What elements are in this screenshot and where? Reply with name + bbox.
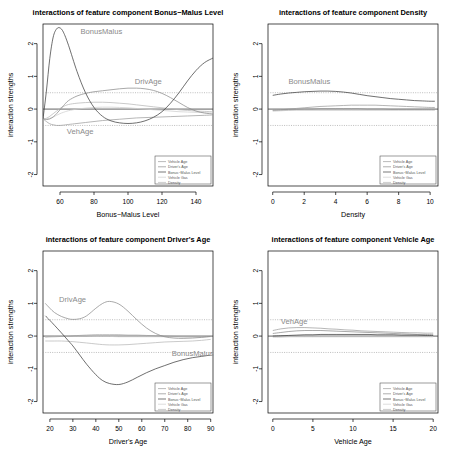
- x-tick-label: 2: [302, 198, 306, 205]
- series-line: [43, 115, 213, 126]
- y-tick-label: 2: [27, 268, 34, 272]
- y-axis-label: interaction strengths: [231, 72, 240, 137]
- curve-annotation: VehAge: [67, 127, 94, 136]
- legend-label: Vehicle Age: [168, 387, 187, 391]
- series-line: [273, 328, 433, 334]
- curve-annotation: BonusMalus: [172, 349, 214, 358]
- legend-label: Bonus−Malus Level: [168, 171, 200, 175]
- x-axis-label: Bonus−Malus Level: [97, 210, 160, 219]
- legend-label: Bonus−Malus Level: [393, 171, 425, 175]
- x-tick-label: 60: [56, 198, 64, 205]
- chart-panel-2: interactions of feature component Densit…: [225, 0, 450, 227]
- x-tick-label: 20: [430, 425, 438, 432]
- y-tick-label: 2: [27, 41, 34, 45]
- x-tick-label: 80: [90, 198, 98, 205]
- x-tick-label: 30: [69, 425, 77, 432]
- series-line: [273, 110, 435, 111]
- y-axis-label: interaction strengths: [6, 299, 15, 364]
- chart-title: interactions of feature component Driver…: [46, 235, 211, 244]
- y-tick-label: 0: [252, 334, 259, 338]
- y-tick-label: 1: [252, 301, 259, 305]
- legend-label: Vehicle Gas: [393, 403, 413, 407]
- curve-annotation: DrivAge: [59, 295, 86, 304]
- x-tick-label: 15: [389, 425, 397, 432]
- x-axis-label: Driver's Age: [109, 437, 148, 446]
- x-tick-label: 140: [190, 198, 201, 205]
- x-tick-label: 120: [156, 198, 167, 205]
- x-tick-label: 50: [115, 425, 123, 432]
- legend-label: Density: [393, 181, 405, 185]
- chart-panel-4: interactions of feature component Vehicl…: [225, 227, 450, 454]
- legend-label: Bonus−Malus Level: [393, 398, 425, 402]
- x-tick-label: 6: [365, 198, 369, 205]
- legend-label: Driver's Age: [393, 165, 413, 169]
- x-tick-label: 40: [92, 425, 100, 432]
- legend-label: Vehicle Age: [393, 387, 412, 391]
- chart-title: interactions of feature component Bonus−…: [33, 8, 224, 17]
- x-axis-label: Density: [341, 210, 365, 219]
- legend-label: Density: [168, 408, 180, 412]
- legend-label: Driver's Age: [393, 392, 413, 396]
- y-tick-label: 2: [252, 41, 259, 45]
- legend-label: Vehicle Gas: [168, 403, 188, 407]
- curve-annotation: BonusMalus: [288, 77, 330, 86]
- chart-panel-1: interactions of feature component Bonus−…: [0, 0, 225, 227]
- legend-label: Density: [168, 181, 180, 185]
- y-tick-label: 0: [252, 107, 259, 111]
- curve-annotation: DrivAge: [135, 77, 162, 86]
- x-tick-label: 0: [271, 198, 275, 205]
- figure-grid: interactions of feature component Bonus−…: [0, 0, 450, 454]
- y-tick-label: 1: [27, 74, 34, 78]
- legend-label: Vehicle Gas: [393, 176, 413, 180]
- x-tick-label: 20: [46, 425, 54, 432]
- y-axis-label: interaction strengths: [231, 299, 240, 364]
- chart-title: interactions of feature component Vehicl…: [272, 235, 435, 244]
- y-tick-label: -2: [27, 171, 34, 177]
- curve-annotation: BonusMalus: [80, 27, 122, 36]
- chart-title: interactions of feature component Densit…: [279, 8, 428, 17]
- y-tick-label: -1: [27, 139, 34, 145]
- legend-label: Vehicle Age: [168, 160, 187, 164]
- x-tick-label: 10: [349, 425, 357, 432]
- y-tick-label: -1: [252, 139, 259, 145]
- x-tick-label: 4: [334, 198, 338, 205]
- legend-label: Vehicle Age: [393, 160, 412, 164]
- x-axis-label: Vehicle Age: [334, 437, 372, 446]
- x-tick-label: 60: [138, 425, 146, 432]
- x-tick-label: 10: [426, 198, 434, 205]
- x-tick-label: 90: [207, 425, 215, 432]
- legend-label: Vehicle Gas: [168, 176, 188, 180]
- x-tick-label: 80: [184, 425, 192, 432]
- legend-label: Bonus−Malus Level: [168, 398, 200, 402]
- x-tick-label: 100: [122, 198, 133, 205]
- y-axis-label: interaction strengths: [6, 72, 15, 137]
- y-tick-label: 1: [27, 301, 34, 305]
- x-tick-label: 70: [161, 425, 169, 432]
- curve-annotation: VehAge: [281, 317, 308, 326]
- legend-label: Driver's Age: [168, 392, 188, 396]
- y-tick-label: -1: [27, 366, 34, 372]
- y-tick-label: 1: [252, 74, 259, 78]
- legend-label: Density: [393, 408, 405, 412]
- y-tick-label: -2: [252, 171, 259, 177]
- y-tick-label: 2: [252, 268, 259, 272]
- y-tick-label: 0: [27, 107, 34, 111]
- y-tick-label: -2: [252, 398, 259, 404]
- x-tick-label: 8: [397, 198, 401, 205]
- y-tick-label: -1: [252, 366, 259, 372]
- x-tick-label: 5: [311, 425, 315, 432]
- legend-label: Driver's Age: [168, 165, 188, 169]
- y-tick-label: 0: [27, 334, 34, 338]
- x-tick-label: 0: [271, 425, 275, 432]
- chart-panel-3: interactions of feature component Driver…: [0, 227, 225, 454]
- y-tick-label: -2: [27, 398, 34, 404]
